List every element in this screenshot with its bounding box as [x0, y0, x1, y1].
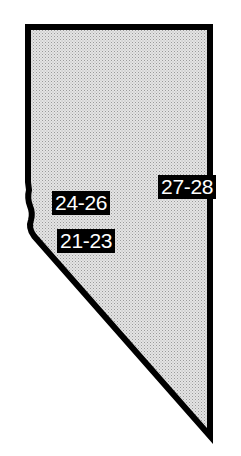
region-label-24-26: 24-26: [52, 191, 110, 215]
state-shape: [28, 27, 210, 436]
region-label-21-23: 21-23: [57, 229, 115, 253]
state-outline-map: [0, 0, 241, 456]
region-label-27-28: 27-28: [158, 175, 216, 199]
